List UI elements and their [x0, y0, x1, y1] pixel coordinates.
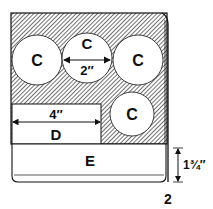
- block-d-label: D: [51, 126, 62, 143]
- base-e-label: E: [85, 152, 95, 169]
- figure-number: 2: [164, 191, 172, 207]
- circle-label: C: [132, 52, 144, 69]
- circle-label: C: [31, 52, 43, 69]
- thickness-label: 1¾″: [183, 158, 206, 172]
- base-e: E: [12, 144, 166, 182]
- block-d-width-label: 4″: [49, 107, 62, 122]
- circle-label: C: [126, 106, 138, 123]
- circle-c-lower-right: C: [110, 92, 154, 136]
- circle-c-top-right: C: [113, 35, 163, 85]
- diameter-label: 2″: [80, 63, 93, 78]
- block-d: 4″ D: [12, 104, 101, 144]
- circle-c-top-left: C: [12, 35, 62, 85]
- circle-label: C: [82, 35, 93, 52]
- assembly-diagram: C C 2″ C C 4″ D E 1¾″ 2: [0, 0, 213, 209]
- circle-c-top-middle: C 2″: [62, 33, 112, 83]
- thickness-dimension: 1¾″: [173, 148, 206, 182]
